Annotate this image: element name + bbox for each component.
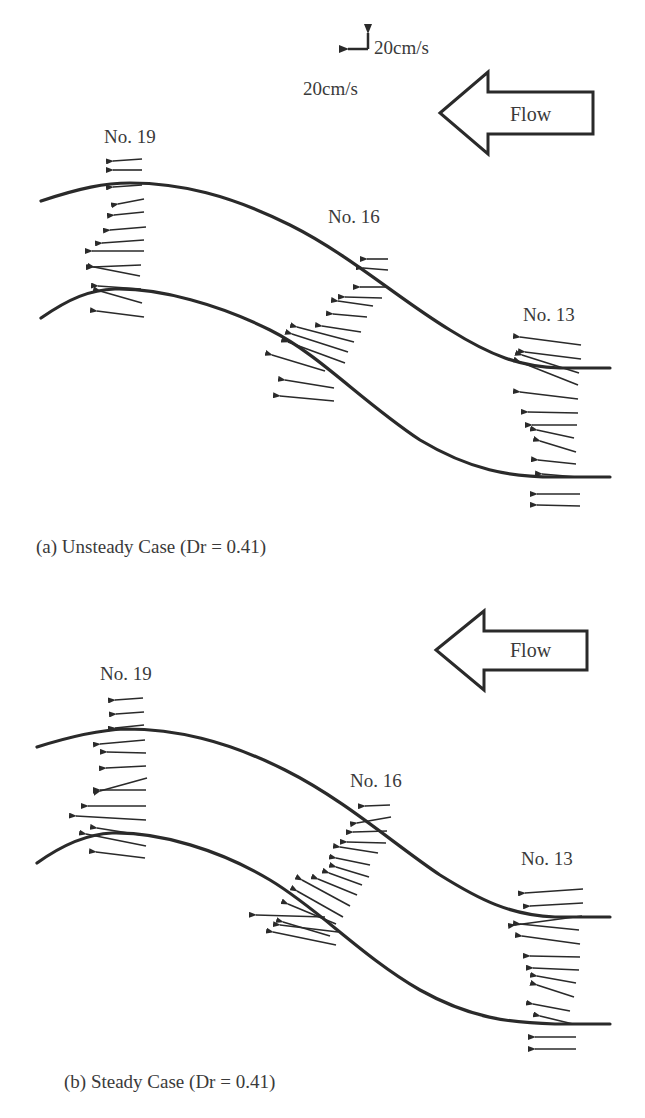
panel-a-channel-banks: [41, 183, 610, 477]
panel-b-section-19-label: No. 19: [100, 664, 152, 683]
panel-a-caption: (a) Unsteady Case (Dr = 0.41): [36, 537, 266, 556]
panel-a-section-16-label: No. 16: [328, 207, 380, 226]
panel-a-section-13-label: No. 13: [523, 305, 575, 324]
scale-label-horizontal: 20cm/s: [303, 79, 358, 98]
panel-b-section-13-label: No. 13: [521, 849, 573, 868]
panel-b-channel-banks: [37, 729, 610, 1024]
panel-b-section-16-label: No. 16: [350, 771, 402, 790]
panel-a-section-16-vectors: [272, 259, 388, 401]
panel-a-section-19-label: No. 19: [104, 127, 156, 146]
scale-label-vertical: 20cm/s: [374, 38, 429, 57]
panel-b-caption: (b) Steady Case (Dr = 0.41): [64, 1072, 275, 1091]
flow-diagram: [0, 0, 645, 1118]
scale-vector-icon: [348, 33, 368, 49]
panel-a-section-13-vectors: [520, 337, 581, 506]
panel-a-flow-label: Flow: [510, 104, 551, 124]
panel-b-flow-label: Flow: [510, 640, 551, 660]
